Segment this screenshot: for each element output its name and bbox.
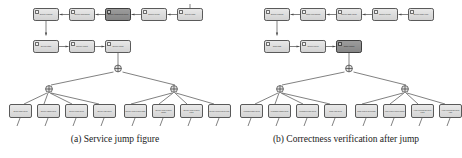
- node-label: Service jump verify: [413, 13, 429, 16]
- node-label: Jump correctness: [305, 13, 320, 16]
- leaf-node[interactable]: Verify context check param: [383, 104, 406, 118]
- process-node[interactable]: Jump correctness: [300, 8, 326, 21]
- node-label: Verification param check: [270, 110, 289, 112]
- process-node[interactable]: Service jump: [177, 8, 203, 21]
- task-marker-icon: [71, 10, 75, 14]
- leaf-node[interactable]: Service result check: [65, 104, 88, 118]
- leaf-node[interactable]: Jump context check state: [355, 104, 378, 118]
- process-node[interactable]: Service invoke: [372, 8, 398, 21]
- task-marker-icon: [107, 42, 111, 46]
- task-marker-icon: [374, 10, 378, 14]
- task-marker-icon: [302, 42, 306, 46]
- leaf-node[interactable]: Verification state check: [240, 104, 263, 118]
- leaf-node[interactable]: Service param check: [37, 104, 60, 118]
- node-label: Service check: [307, 45, 319, 48]
- process-node[interactable]: Service scheduling: [69, 8, 95, 21]
- leaf-node[interactable]: Service context check state: [124, 104, 147, 118]
- leaf-node[interactable]: Jump logic check: [324, 104, 347, 118]
- task-marker-icon: [338, 10, 342, 14]
- node-label: Service scheduling: [74, 13, 90, 16]
- task-marker-icon: [179, 10, 183, 14]
- node-label: Service context check state: [125, 110, 146, 112]
- node-label: Service result check: [69, 110, 85, 112]
- task-marker-icon: [71, 42, 75, 46]
- task-marker-icon: [266, 10, 270, 14]
- node-label: Service state: [40, 45, 51, 48]
- leaf-node[interactable]: Service state check: [9, 104, 32, 118]
- process-node[interactable]: Service invoke: [141, 8, 167, 21]
- node-label: Service logic check: [97, 110, 112, 112]
- process-node[interactable]: Service request: [33, 8, 59, 21]
- process-node[interactable]: Service return: [105, 40, 131, 53]
- task-marker-icon: [338, 42, 342, 46]
- process-node[interactable]: Service request: [264, 8, 290, 21]
- subfigure-b-caption: (b) Correctness verification after jump: [231, 134, 461, 144]
- node-label: Service jump: [184, 13, 195, 16]
- node-label: Service return: [112, 45, 124, 48]
- node-label: Service state check: [13, 110, 28, 112]
- task-marker-icon: [35, 42, 39, 46]
- process-node[interactable]: Service state check: [336, 8, 362, 21]
- node-label: Jump context check state: [357, 110, 377, 112]
- task-marker-icon: [266, 42, 270, 46]
- leaf-node[interactable]: Verify correctness check result: [411, 104, 434, 118]
- node-label: Jump state: [272, 45, 282, 48]
- node-label: Service state check: [341, 13, 357, 16]
- node-label: Service context check param: [153, 109, 174, 114]
- leaf-node[interactable]: Service logic check: [93, 104, 116, 118]
- leaf-node[interactable]: Service context check param: [152, 104, 175, 118]
- diagram-b: Service request Jump correctness Service…: [231, 0, 461, 133]
- node-label: Verification result check: [298, 110, 316, 112]
- task-marker-icon: [302, 10, 306, 14]
- leaf-node[interactable]: Verify correctness check logic: [439, 104, 462, 118]
- node-label: Service invoke: [379, 13, 392, 16]
- node-label: Service context check logic: [209, 110, 230, 112]
- subfigure-a: Service request Service scheduling Servi…: [0, 0, 230, 158]
- subfigure-a-caption: (a) Service jump figure: [0, 134, 230, 144]
- process-node-highlighted[interactable]: Jump verified: [336, 40, 362, 53]
- task-marker-icon: [143, 10, 147, 14]
- node-label: Jump logic check: [329, 110, 343, 112]
- diagram-a: Service request Service scheduling Servi…: [0, 0, 230, 133]
- node-label: Service request: [270, 13, 283, 16]
- leaf-node[interactable]: Verification result check: [296, 104, 319, 118]
- process-node[interactable]: Service jump verify: [408, 8, 434, 21]
- subfigure-b: Service request Jump correctness Service…: [231, 0, 461, 158]
- node-label: Service output: [76, 45, 88, 48]
- node-label: Verify correctness check logic: [440, 109, 461, 114]
- leaf-node[interactable]: Service context check result: [180, 104, 203, 118]
- task-marker-icon: [410, 10, 414, 14]
- node-label: Service context check result: [181, 109, 202, 114]
- task-marker-icon: [107, 10, 111, 14]
- node-label: Jump verified: [343, 45, 355, 48]
- process-node[interactable]: Service check: [300, 40, 326, 53]
- leaf-node[interactable]: Verification param check: [268, 104, 291, 118]
- process-node[interactable]: Service output: [69, 40, 95, 53]
- leaf-node[interactable]: Service context check logic: [208, 104, 231, 118]
- process-node[interactable]: Service state: [33, 40, 59, 53]
- process-node[interactable]: Jump state: [264, 40, 290, 53]
- node-label: Verify correctness check result: [412, 109, 433, 114]
- node-label: Verification state check: [243, 110, 261, 112]
- task-marker-icon: [35, 10, 39, 14]
- node-label: Service invoke: [148, 13, 161, 16]
- node-label: Service request: [39, 13, 52, 16]
- node-label: Service param check: [40, 110, 56, 112]
- node-label: Verify context check param: [384, 110, 405, 112]
- process-node-highlighted[interactable]: Service component select: [105, 8, 131, 21]
